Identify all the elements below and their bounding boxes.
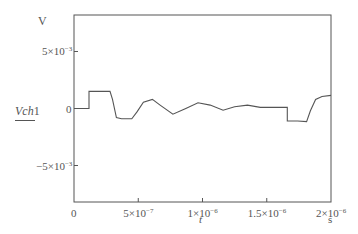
- x-tick-label: 1×10−6: [188, 207, 218, 219]
- y-axis-label: Vch1: [15, 104, 40, 119]
- x-axis-ticks: [138, 198, 267, 202]
- plot-frame: [74, 15, 331, 202]
- y-axis-label-name: Vch: [15, 104, 34, 118]
- y-unit-label: V: [38, 14, 47, 29]
- x-axis-label: t: [199, 213, 202, 225]
- x-tick-label: 0: [71, 207, 77, 219]
- x-tick-label: 5×10−7: [123, 207, 153, 219]
- y-axis-label-underline: [15, 120, 35, 121]
- y-tick-label: 0: [66, 103, 72, 115]
- x-tick-label: 1.5×10−6: [248, 207, 286, 219]
- x-unit-label: s: [328, 213, 332, 225]
- y-tick-label: −5×10−3: [36, 160, 72, 172]
- chart-plot-area: [0, 0, 358, 234]
- y-axis-label-index: 1: [34, 104, 40, 118]
- y-tick-label: 5×10−3: [42, 45, 72, 57]
- vch1-trace: [74, 91, 331, 121]
